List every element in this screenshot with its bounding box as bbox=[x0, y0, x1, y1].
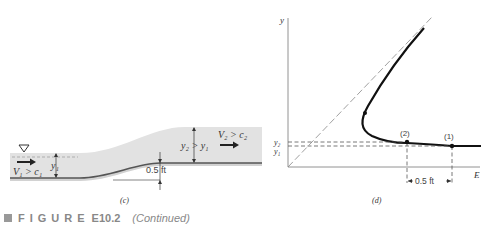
caption-figure-word: FIGURE bbox=[18, 212, 90, 224]
upstream-velocity-label: V₁ > c₁ bbox=[13, 166, 42, 177]
specific-energy-curve bbox=[362, 28, 481, 146]
caption-figure-number: E10.2 bbox=[92, 212, 121, 224]
step-arrow-bottom bbox=[158, 180, 162, 184]
e-equals-y-line bbox=[288, 17, 432, 167]
free-surface-icon bbox=[19, 145, 29, 152]
point-1-marker bbox=[450, 144, 454, 148]
figure-canvas: V₁ > c₁ y₁ 0.5 ft y₂ > y₁ V₂ > c₂ (c) y … bbox=[0, 0, 488, 231]
downstream-depth-label: y₂ > y₁ bbox=[180, 140, 209, 151]
y1-label: y₁ bbox=[273, 147, 281, 156]
step-height-label: 0.5 ft bbox=[146, 165, 167, 175]
energy-step-label: 0.5 ft bbox=[415, 176, 435, 186]
x-axis-label: E bbox=[473, 170, 480, 180]
point-1-label: (1) bbox=[444, 132, 454, 141]
downstream-velocity-label: V₂ > c₂ bbox=[218, 129, 248, 140]
upstream-depth-label: y₁ bbox=[50, 160, 59, 171]
panel-c: V₁ > c₁ y₁ 0.5 ft y₂ > y₁ V₂ > c₂ (c) bbox=[10, 127, 262, 205]
panel-d: y E y₂ y₁ (2) (1) 0.5 ft (d) bbox=[273, 15, 481, 205]
y-axis-label: y bbox=[279, 15, 284, 25]
point-2-marker bbox=[405, 140, 409, 144]
step-arrow-right bbox=[447, 179, 451, 183]
critical-point bbox=[363, 111, 367, 115]
caption-continued: (Continued) bbox=[132, 212, 189, 224]
figure-caption: FIGUREE10.2(Continued) bbox=[4, 212, 190, 224]
panel-d-label: (d) bbox=[372, 196, 382, 205]
panel-c-label: (c) bbox=[120, 196, 129, 205]
point-2-label: (2) bbox=[400, 129, 410, 138]
y2-label: y₂ bbox=[273, 138, 281, 147]
caption-square-icon bbox=[4, 214, 12, 222]
step-arrow-left bbox=[408, 179, 412, 183]
